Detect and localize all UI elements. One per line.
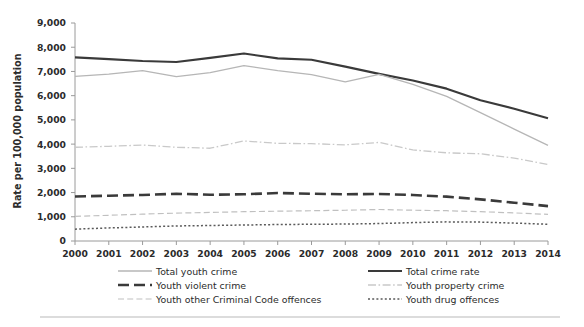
series-line	[75, 54, 548, 119]
y-axis-tick-label: 8,000	[37, 42, 66, 53]
y-axis-tick-label: 4,000	[37, 139, 66, 150]
legend-label: Youth property crime	[405, 280, 505, 291]
x-axis-tick-label: 2000	[62, 248, 88, 259]
x-axis-tick-label: 2009	[366, 248, 392, 259]
legend-label: Youth other Criminal Code offences	[155, 294, 322, 305]
y-axis-tick-label: 6,000	[37, 90, 66, 101]
x-axis-tick-label: 2010	[400, 248, 426, 259]
x-axis-tick-label: 2005	[231, 248, 257, 259]
y-axis-title-group: Rate per 100,000 population	[12, 53, 23, 208]
axis-lines	[75, 23, 548, 241]
line-chart-figure: Rate per 100,000 population 01,0002,0003…	[0, 0, 584, 327]
chart-legend: Total youth crimeYouth violent crimeYout…	[118, 266, 505, 305]
x-axis-tick-label: 2004	[197, 248, 223, 259]
series-line	[75, 210, 548, 217]
legend-label: Youth violent crime	[155, 280, 246, 291]
x-axis-tick-label: 2011	[434, 248, 460, 259]
y-axis-tick-marks	[71, 23, 75, 241]
x-axis-tick-label: 2007	[299, 248, 325, 259]
x-axis-tick-label: 2002	[130, 248, 156, 259]
y-axis-tick-label: 2,000	[37, 187, 66, 198]
series-line	[75, 66, 548, 146]
legend-label: Youth drug offences	[405, 294, 499, 305]
legend-label: Total crime rate	[405, 266, 480, 277]
x-axis-tick-label: 2003	[164, 248, 190, 259]
x-axis-tick-label: 2001	[96, 248, 122, 259]
y-axis-tick-label: 7,000	[37, 66, 66, 77]
series-lines-group	[75, 54, 548, 230]
legend-label: Total youth crime	[155, 266, 237, 277]
series-line	[75, 141, 548, 165]
y-axis-tick-label: 1,000	[37, 211, 66, 222]
series-line	[75, 193, 548, 206]
x-axis-tick-marks	[75, 241, 548, 245]
x-axis-tick-label: 2014	[535, 248, 561, 259]
y-axis-tick-label: 0	[60, 235, 66, 246]
series-line	[75, 222, 548, 229]
x-axis-tick-labels: 2000200120022003200420052006200720082009…	[62, 248, 561, 259]
y-axis-title: Rate per 100,000 population	[12, 53, 23, 208]
y-axis-tick-labels: 01,0002,0003,0004,0005,0006,0007,0008,00…	[37, 17, 66, 246]
x-axis-tick-label: 2013	[501, 248, 527, 259]
y-axis-tick-label: 9,000	[37, 17, 66, 28]
chart-container: Rate per 100,000 population 01,0002,0003…	[0, 0, 584, 327]
x-axis-tick-label: 2012	[468, 248, 494, 259]
y-axis-tick-label: 5,000	[37, 114, 66, 125]
x-axis-tick-label: 2006	[265, 248, 291, 259]
y-axis-tick-label: 3,000	[37, 163, 66, 174]
x-axis-tick-label: 2008	[332, 248, 358, 259]
